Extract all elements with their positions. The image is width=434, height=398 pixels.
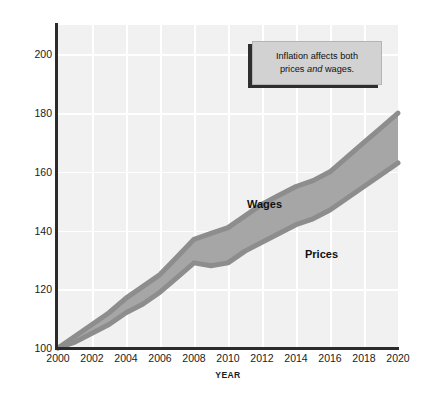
- callout-box: Inflation affects both prices and wages.: [252, 41, 382, 85]
- x-tick-label: 2020: [378, 352, 418, 364]
- callout-line2-emphasis: and: [307, 64, 322, 74]
- callout-line1: Inflation affects both: [276, 51, 358, 61]
- gridline-vertical: [398, 25, 400, 348]
- y-tick-label: 120: [6, 283, 52, 295]
- y-tick-label: 140: [6, 225, 52, 237]
- callout-text: Inflation affects both prices and wages.: [270, 50, 364, 76]
- y-axis-ticks: 100120140160180200: [0, 0, 52, 398]
- chart-figure: 100120140160180200 NOMINAL WAGES AND PRI…: [0, 0, 434, 398]
- y-tick-label: 180: [6, 107, 52, 119]
- callout-line2-post: wages.: [322, 64, 354, 74]
- x-axis-ticks: 2000200220042006200820102012201420162018…: [58, 352, 398, 368]
- callout-line2-pre: prices: [280, 64, 307, 74]
- x-axis-line: [55, 347, 399, 350]
- x-axis-title: YEAR: [58, 370, 398, 380]
- y-tick-label: 200: [6, 48, 52, 60]
- y-axis-line: [55, 23, 58, 350]
- y-tick-label: 160: [6, 166, 52, 178]
- series-label-wages: Wages: [247, 198, 282, 210]
- series-label-prices: Prices: [305, 248, 338, 260]
